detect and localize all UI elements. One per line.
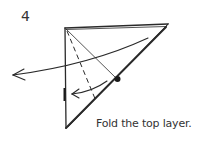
reference-dot [115, 76, 121, 82]
small-fold-arrow [72, 81, 107, 98]
paper-outline [65, 24, 168, 128]
instruction-caption: Fold the top layer. [96, 117, 192, 130]
valley-fold-line [67, 31, 96, 101]
large-turn-over-arrow [13, 38, 148, 80]
